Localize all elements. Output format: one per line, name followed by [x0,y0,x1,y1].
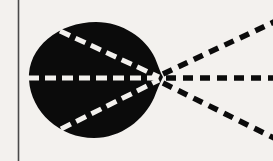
figure-canvas [0,0,273,161]
figure-diagram [0,0,273,161]
